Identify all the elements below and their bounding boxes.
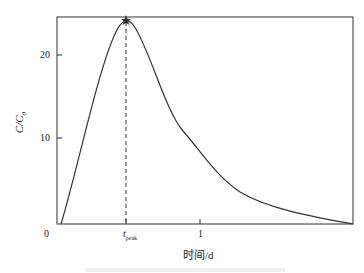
peak-subscript: peak bbox=[126, 235, 137, 241]
y-axis-title: C/C0 bbox=[13, 112, 28, 133]
y-tick-label-0: 0 bbox=[44, 229, 49, 239]
x-tick-label-peak: tpeak bbox=[123, 229, 137, 243]
y-tick-label-10: 10 bbox=[40, 133, 50, 143]
y-title-text: C/C bbox=[13, 115, 25, 133]
plot-frame bbox=[57, 17, 353, 224]
figure-caption-faint bbox=[85, 268, 285, 272]
concentration-curve bbox=[61, 21, 353, 224]
chart-canvas bbox=[0, 0, 364, 273]
x-axis-title: 时间/d bbox=[183, 246, 214, 262]
x-tick-label-1: 1 bbox=[198, 229, 203, 239]
y-tick-label-20: 20 bbox=[40, 50, 50, 60]
y-title-subscript: 0 bbox=[20, 112, 28, 116]
